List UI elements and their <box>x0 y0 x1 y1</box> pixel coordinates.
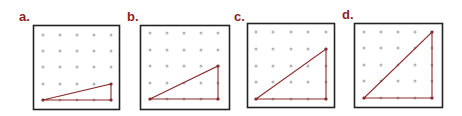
right-triangle <box>43 84 111 100</box>
grid-dot <box>42 66 45 69</box>
grid-dot <box>414 80 417 83</box>
grid-dot <box>363 47 366 50</box>
right-triangle <box>364 32 432 98</box>
grid-dot <box>166 65 169 68</box>
grid-dot <box>290 65 293 68</box>
grid-dot <box>149 65 152 68</box>
grid-dot <box>59 50 62 53</box>
right-triangle <box>150 66 218 99</box>
grid-dot <box>272 48 275 51</box>
grid-dot <box>397 31 400 34</box>
vertex-peg <box>324 97 327 100</box>
grid-dot <box>380 31 383 34</box>
grid-dot <box>93 83 96 86</box>
grid-dot <box>200 82 203 85</box>
geoboard-d <box>355 24 443 108</box>
vertex-peg <box>109 82 112 85</box>
grid-dot <box>414 31 417 34</box>
grid-dot <box>272 31 275 34</box>
grid-dot <box>255 81 258 84</box>
geoboards <box>0 0 462 116</box>
grid-dot <box>183 32 186 35</box>
grid-dot <box>217 32 220 35</box>
vertex-peg <box>324 47 327 50</box>
grid-dot <box>149 32 152 35</box>
grid-dot <box>183 49 186 52</box>
grid-dot <box>397 80 400 83</box>
grid-dot <box>380 47 383 50</box>
grid-dot <box>76 66 79 69</box>
grid-dot <box>76 50 79 53</box>
grid-dot <box>149 82 152 85</box>
grid-dot <box>397 47 400 50</box>
grid-dot <box>110 66 113 69</box>
geoboard-a <box>34 26 120 110</box>
grid-dot <box>42 50 45 53</box>
grid-dot <box>59 83 62 86</box>
grid-dot <box>42 83 45 86</box>
grid-dot <box>42 34 45 37</box>
grid-dot <box>93 66 96 69</box>
vertex-peg <box>430 30 433 33</box>
grid-dot <box>166 82 169 85</box>
grid-dot <box>110 34 113 37</box>
vertex-peg <box>148 97 151 100</box>
grid-dot <box>290 48 293 51</box>
grid-dot <box>363 80 366 83</box>
grid-dot <box>166 49 169 52</box>
grid-dot <box>307 81 310 84</box>
grid-dot <box>290 81 293 84</box>
vertex-peg <box>362 96 365 99</box>
grid-dot <box>325 31 328 34</box>
right-triangle <box>256 49 326 99</box>
grid-dot <box>307 31 310 34</box>
grid-dot <box>272 81 275 84</box>
grid-dot <box>200 49 203 52</box>
grid-dot <box>200 65 203 68</box>
grid-dot <box>272 65 275 68</box>
grid-dot <box>290 31 293 34</box>
geoboard-b <box>141 26 230 110</box>
vertex-peg <box>216 97 219 100</box>
grid-dot <box>380 64 383 67</box>
grid-dot <box>255 65 258 68</box>
grid-dot <box>93 34 96 37</box>
grid-dot <box>200 32 203 35</box>
grid-dot <box>255 48 258 51</box>
grid-dot <box>76 34 79 37</box>
grid-dot <box>363 64 366 67</box>
vertex-peg <box>254 97 257 100</box>
grid-dot <box>166 32 169 35</box>
grid-dot <box>93 50 96 53</box>
vertex-peg <box>41 98 44 101</box>
grid-dot <box>149 49 152 52</box>
grid-dot <box>414 64 417 67</box>
geoboard-c <box>248 24 335 108</box>
grid-dot <box>217 49 220 52</box>
grid-dot <box>59 66 62 69</box>
grid-dot <box>255 31 258 34</box>
grid-dot <box>110 50 113 53</box>
grid-dot <box>307 48 310 51</box>
grid-dot <box>76 83 79 86</box>
grid-dot <box>183 65 186 68</box>
grid-dot <box>59 34 62 37</box>
vertex-peg <box>109 98 112 101</box>
vertex-peg <box>216 64 219 67</box>
grid-dot <box>363 31 366 34</box>
grid-dot <box>307 65 310 68</box>
vertex-peg <box>430 96 433 99</box>
